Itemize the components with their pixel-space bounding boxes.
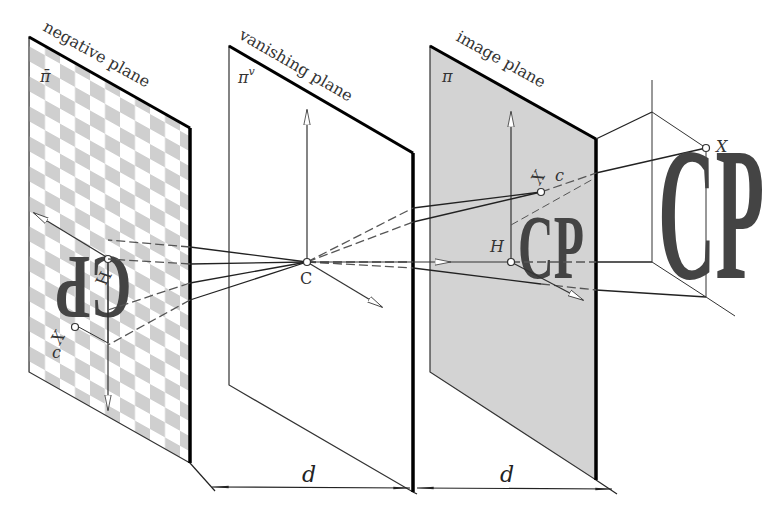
perspective-diagram: negative plane π̄ CP H X c vanishing pla… [0, 0, 774, 518]
center-label: C [300, 269, 312, 288]
object-x-label: X [714, 137, 728, 156]
negative-cp-letters: CP [56, 237, 132, 339]
image-x-sub: c [555, 166, 564, 185]
negative-x-point [72, 324, 79, 331]
image-x-point [538, 189, 545, 196]
negative-x-sub: c [52, 343, 61, 362]
image-plane-symbol: π [441, 67, 453, 86]
svg-text:CP: CP [658, 108, 764, 319]
vanishing-plane [229, 46, 413, 492]
object-cp-letters: CP [658, 108, 764, 319]
negative-plane-symbol: π̄ [39, 67, 51, 86]
object-x-point [703, 145, 710, 152]
svg-text:CP: CP [56, 237, 132, 339]
image-h-label: H [489, 237, 505, 256]
dimension-label-1: d [302, 462, 316, 487]
image-h-point [508, 259, 515, 266]
dimension-label-2: d [500, 462, 514, 487]
center-point-c [304, 259, 311, 266]
